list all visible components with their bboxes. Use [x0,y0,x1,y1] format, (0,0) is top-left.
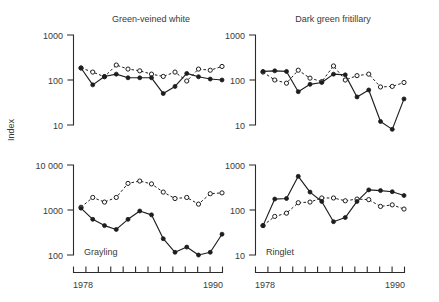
data-point-open-1980 [284,81,288,85]
data-point-open-1989 [390,84,394,88]
data-point-filled-1984 [332,72,336,76]
data-point-open-1986 [173,70,177,74]
series-layer-panel2 [261,64,406,131]
panel-grayling: 10 000 1000 100 Grayling [35,161,224,261]
data-point-open-1983 [138,69,142,73]
data-point-filled-1984 [150,76,154,80]
data-point-open-1987 [185,79,189,83]
data-point-open-1990 [220,191,224,195]
data-point-filled-1988 [379,119,383,123]
data-point-open-1984 [149,182,153,186]
data-point-open-1984 [331,196,335,200]
panel-green-veined-white: Green-veined white 1000 100 10 [43,14,224,131]
data-point-filled-1989 [208,250,212,254]
data-point-filled-1984 [332,220,336,224]
data-point-open-1980 [102,200,106,204]
data-point-filled-1983 [320,81,324,85]
data-point-open-1985 [161,74,165,78]
markers-dashed-panel3 [79,179,224,209]
data-point-filled-1988 [197,75,201,79]
y-tick-label-panel4-1000: 1000 [225,161,245,171]
data-point-filled-1987 [185,245,189,249]
x-axis-ticks-left [74,267,223,273]
data-point-filled-1987 [367,188,371,192]
y-tick-label-panel2-10: 10 [235,121,245,131]
panel-title-ringlet: Ringlet [266,247,295,257]
data-point-open-1988 [196,202,200,206]
data-point-filled-1978 [261,69,265,73]
data-point-filled-1980 [285,69,289,73]
data-point-open-1981 [114,195,118,199]
data-point-open-1979 [273,78,277,82]
data-point-filled-1979 [273,197,277,201]
data-point-filled-1985 [343,216,347,220]
data-point-filled-1986 [355,95,359,99]
series-layer-panel1 [79,63,224,96]
data-point-filled-1990 [402,97,406,101]
data-point-filled-1981 [296,90,300,94]
data-point-filled-1982 [308,82,312,86]
data-point-open-1983 [138,179,142,183]
data-point-open-1984 [331,64,335,68]
data-point-filled-1979 [91,83,95,87]
data-point-open-1990 [220,64,224,68]
data-point-filled-1980 [103,74,107,78]
data-point-open-1981 [296,68,300,72]
data-point-open-1982 [308,76,312,80]
series-solid-panel2 [263,71,404,130]
data-point-filled-1986 [355,199,359,203]
data-point-filled-1985 [343,73,347,77]
data-point-filled-1981 [296,174,300,178]
data-point-open-1979 [91,195,95,199]
data-point-open-1987 [367,198,371,202]
data-point-open-1979 [273,214,277,218]
data-point-open-1990 [402,80,406,84]
y-tick-label-panel4-100: 100 [230,206,245,216]
data-point-open-1989 [390,203,394,207]
series-layer-panel3 [79,179,224,257]
data-point-open-1986 [173,196,177,200]
data-point-filled-1989 [390,127,394,131]
data-point-open-1985 [343,199,347,203]
markers-solid-panel4 [261,174,406,227]
panel-title-grayling: Grayling [84,247,118,257]
data-point-open-1988 [378,204,382,208]
panel-title-dark-green-fritillary: Dark green fritillary [295,14,371,24]
data-point-filled-1978 [79,66,83,70]
x-axis-right: 1978 1990 [255,267,405,291]
data-point-filled-1982 [308,190,312,194]
data-point-filled-1984 [150,213,154,217]
data-point-filled-1982 [126,76,130,80]
data-point-filled-1979 [273,69,277,73]
data-point-open-1982 [126,181,130,185]
data-point-filled-1989 [390,190,394,194]
x-axis-end-label-left: 1990 [203,280,223,290]
markers-solid-panel1 [79,66,224,96]
data-point-filled-1983 [320,199,324,203]
x-axis-left: 1978 1990 [73,267,223,291]
y-tick-label-panel1-1000: 1000 [43,31,63,41]
data-point-filled-1988 [197,253,201,257]
x-axis-start-label-left: 1978 [73,280,93,290]
data-point-open-1988 [378,85,382,89]
data-point-open-1989 [208,192,212,196]
data-point-filled-1990 [402,194,406,198]
data-point-filled-1982 [126,217,130,221]
y-tick-label-panel3-1000: 1000 [43,206,63,216]
series-layer-panel4 [261,174,406,227]
panel-dark-green-fritillary: Dark green fritillary 1000 100 10 [225,14,406,131]
butterfly-index-figure: Index Green-veined white 1000 100 10 Dar… [0,0,439,302]
data-point-filled-1980 [103,224,107,228]
data-point-filled-1987 [367,88,371,92]
data-point-open-1989 [208,68,212,72]
data-point-filled-1990 [220,78,224,82]
data-point-filled-1978 [79,206,83,210]
data-point-filled-1979 [91,217,95,221]
data-point-filled-1990 [220,232,224,236]
markers-solid-panel2 [261,69,406,132]
data-point-filled-1985 [161,237,165,241]
data-point-open-1980 [284,211,288,215]
y-tick-label-panel2-100: 100 [230,76,245,86]
x-axis-ticks-right [256,267,405,273]
data-point-filled-1983 [138,209,142,213]
